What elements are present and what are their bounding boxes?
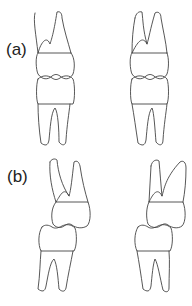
panel-a-left-pair xyxy=(34,12,74,145)
panel-a-right-pair xyxy=(130,12,168,145)
panel-b-right-pair xyxy=(135,160,186,292)
lower-tooth-icon xyxy=(131,76,169,145)
upper-tooth-icon xyxy=(50,159,90,228)
teeth-diagram xyxy=(0,0,192,306)
panel-b-left-pair xyxy=(38,159,90,291)
lower-tooth-icon xyxy=(37,76,75,145)
upper-tooth-icon xyxy=(34,12,74,79)
upper-tooth-icon xyxy=(130,12,168,79)
lower-tooth-icon xyxy=(135,225,173,292)
lower-tooth-icon xyxy=(38,225,76,291)
upper-tooth-icon xyxy=(147,160,186,228)
